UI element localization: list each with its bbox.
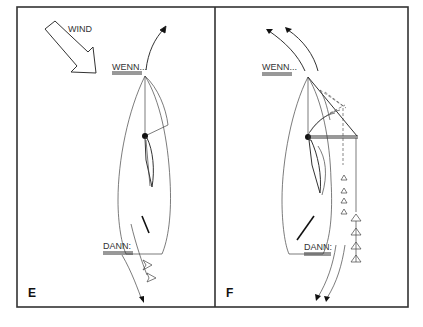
wind-label: WIND	[68, 24, 92, 34]
telltale-icon	[341, 175, 347, 180]
mast-icon	[305, 134, 311, 140]
if-label: WENN...	[112, 62, 147, 72]
panel-f: WENN... DANN: F	[226, 27, 361, 302]
then-label: DANN:	[103, 241, 131, 251]
mainsail-icon	[309, 140, 321, 193]
panel-letter-e: E	[28, 286, 36, 300]
figure-frame	[17, 7, 408, 307]
then-label: DANN:	[304, 242, 332, 252]
tiller-icon	[142, 216, 149, 233]
panel-letter-f: F	[226, 286, 233, 300]
tiller-icon	[297, 216, 314, 240]
jib-icon	[145, 76, 168, 136]
panel-e: WIND WENN... DANN: E	[28, 21, 171, 303]
sailing-diagram: WIND WENN... DANN: E	[0, 0, 423, 327]
turn-arrow-icon	[146, 29, 164, 70]
if-label: WENN...	[262, 62, 297, 72]
